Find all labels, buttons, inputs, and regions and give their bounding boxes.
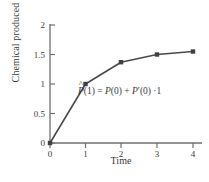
x-tick-label-0: 0 [48,149,53,159]
data-series-line [50,52,193,144]
y-tick-label-2: 2 [41,20,46,30]
chart-figure: 0 0.5 1 1.5 2 0 1 2 3 4 Chemical produce… [0,0,209,182]
data-point-0 [48,141,52,145]
equation-lhs-arg: (1) [84,86,95,96]
data-point-3 [155,52,159,56]
y-tick-label-1_5: 1.5 [34,50,46,60]
data-point-markers [48,49,195,145]
equation-equals: = [97,86,102,96]
equation-term2-arg: (0) [140,86,151,96]
annotation-equation: ^P(1) = P(0) + P′(0) ·1 [78,86,161,96]
y-axis-label: Chemical produced [10,0,21,103]
hat-accent-icon: ^ [79,80,83,89]
data-point-2 [119,60,123,64]
equation-plus: + [124,86,129,96]
y-tick-label-1: 1 [41,79,46,89]
equation-factor: 1 [157,86,162,96]
x-tick-label-4: 4 [191,149,196,159]
y-tick-label-0: 0 [41,138,46,148]
x-axis-ticks [50,143,193,148]
equation-term1-arg: (0) [111,86,122,96]
x-axis-label: Time [86,155,156,166]
y-tick-label-0_5: 0.5 [34,109,46,119]
y-axis-ticks [50,25,55,143]
data-point-4 [191,49,195,53]
equation-lhs-var: ^P [78,86,84,96]
